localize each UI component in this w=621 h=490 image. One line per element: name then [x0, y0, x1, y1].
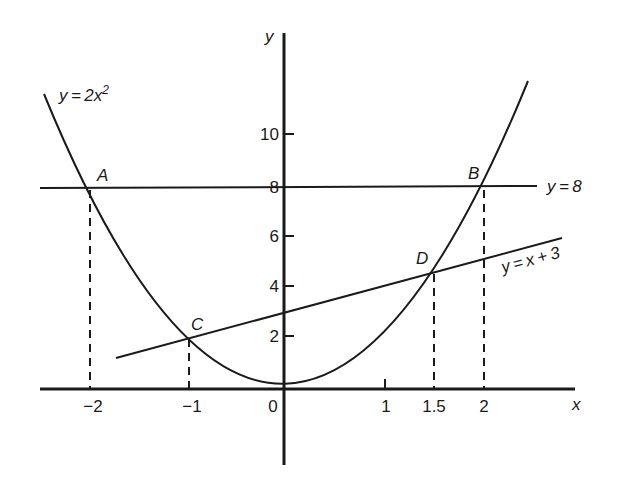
y-axis-label: y: [264, 27, 275, 46]
parabola-y-equals-2x-squared: [44, 81, 528, 384]
x-tick-label: −2: [83, 397, 102, 416]
x-tick-labels: −2 −1 0 1 1.5 2: [83, 397, 488, 416]
x-axis-label: x: [571, 395, 581, 414]
parabola-label-main: y = 2x: [58, 86, 103, 105]
line-y-equals-8: [40, 186, 537, 188]
parabola-label-exponent: 2: [101, 83, 109, 97]
sloped-line-label: y = x + 3: [498, 243, 562, 277]
y-tick-labels: 10 8 6 4 2: [260, 125, 279, 346]
line-y-equals-x-plus-3: [116, 238, 562, 358]
parabola-label: y = 2x2: [58, 83, 109, 105]
point-label-d: D: [416, 249, 428, 268]
x-tick-label: 1.5: [422, 397, 446, 416]
point-label-a: A: [96, 166, 108, 185]
y-tick-label: 2: [270, 327, 279, 346]
drop-lines: [90, 190, 484, 389]
x-tick-label: 2: [479, 397, 488, 416]
point-label-c: C: [191, 315, 204, 334]
horizontal-line-label: y = 8: [546, 177, 582, 196]
y-tick-label: 4: [270, 277, 279, 296]
x-tick-label: 0: [268, 397, 277, 416]
y-tick-label: 10: [260, 125, 279, 144]
y-tick-label: 6: [270, 227, 279, 246]
graph-figure: 10 8 6 4 2 −2 −1 0 1 1.5 2 x y y = 2x2 y…: [0, 0, 621, 490]
point-label-b: B: [468, 164, 479, 183]
x-tick-label: −1: [182, 397, 201, 416]
x-tick-label: 1: [381, 397, 390, 416]
y-tick-label: 8: [270, 178, 279, 197]
